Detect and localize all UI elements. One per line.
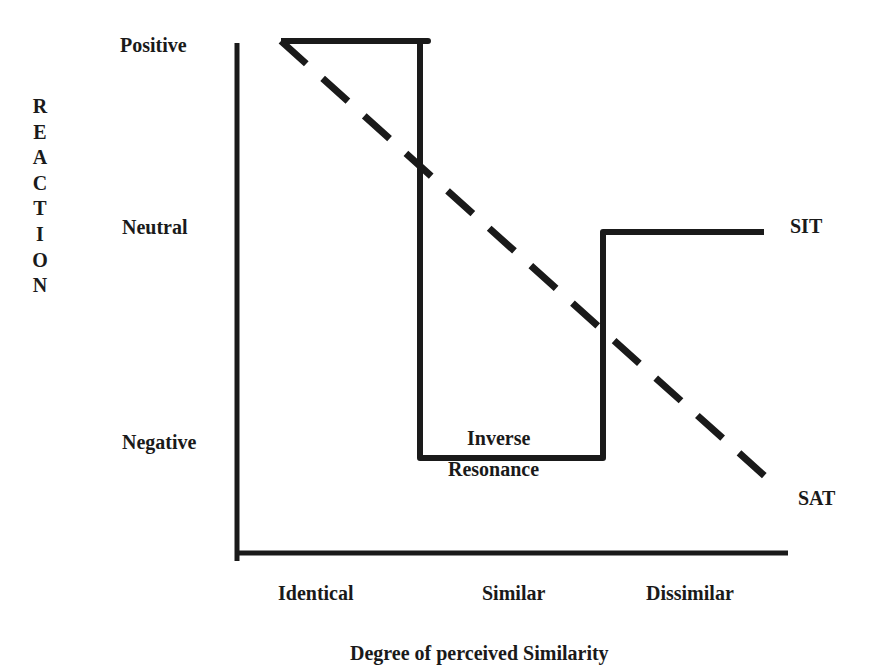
y-axis-title-letter: E: [30, 120, 50, 146]
sat-label: SAT: [798, 487, 835, 510]
sit-line: [281, 41, 764, 458]
y-tick-negative: Negative: [122, 431, 196, 454]
annotation-inverse: Inverse: [467, 427, 530, 450]
annotation-resonance: Resonance: [448, 458, 539, 481]
y-axis-title-letter: C: [30, 171, 50, 197]
y-tick-positive: Positive: [120, 34, 187, 57]
y-axis-title-letter: R: [30, 94, 50, 120]
y-axis-title-letter: N: [30, 273, 50, 299]
x-tick-identical: Identical: [278, 582, 354, 605]
y-axis-title-letter: O: [30, 248, 50, 274]
x-axis-title: Degree of perceived Similarity: [350, 642, 609, 665]
x-tick-dissimilar: Dissimilar: [646, 582, 734, 605]
y-axis-title-letter: T: [30, 196, 50, 222]
y-axis-title: R E A C T I O N: [30, 94, 50, 299]
y-axis-title-letter: A: [30, 145, 50, 171]
x-tick-similar: Similar: [482, 582, 545, 605]
y-axis-title-letter: I: [30, 222, 50, 248]
sat-dashed-line: [281, 41, 778, 488]
sit-label: SIT: [790, 215, 822, 238]
diagram-canvas: [0, 0, 877, 671]
y-tick-neutral: Neutral: [122, 216, 188, 239]
